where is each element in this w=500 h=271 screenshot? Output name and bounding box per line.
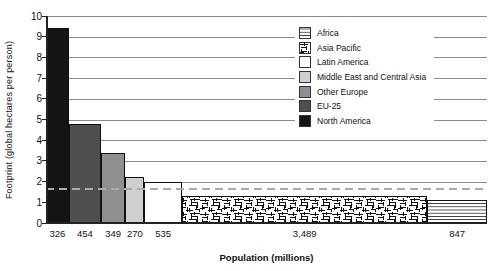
footprint-by-region-chart: Footprint (global hectares per person) P…: [0, 0, 500, 271]
legend-label-eu-25: EU-25: [317, 101, 341, 111]
legend-label-asia-pacific: Asia Pacific: [317, 43, 361, 53]
y-tick-label-8: 8: [20, 52, 42, 63]
y-tick-mark-5: [42, 119, 46, 120]
legend-item-latin-america: Latin America: [299, 55, 426, 70]
y-tick-label-2: 2: [20, 176, 42, 187]
y-axis-title: Footprint (global hectares per person): [4, 41, 14, 199]
y-tick-label-5: 5: [20, 114, 42, 125]
y-tick-label-4: 4: [20, 135, 42, 146]
legend-swatch-middle-east-and-central-asia: [299, 71, 311, 83]
y-tick-label-7: 7: [20, 73, 42, 84]
x-tick-label-africa: 847: [435, 228, 479, 239]
y-tick-mark-10: [42, 16, 46, 17]
legend-swatch-other-europe: [299, 86, 311, 98]
bar-africa: [428, 201, 487, 223]
y-tick-mark-0: [42, 223, 46, 224]
y-tick-label-9: 9: [20, 31, 42, 42]
y-tick-mark-6: [42, 98, 46, 99]
legend-label-latin-america: Latin America: [317, 57, 369, 67]
x-tick-label-asia-pacific: 3,489: [283, 228, 327, 239]
y-tick-mark-9: [42, 36, 46, 37]
bar-eu-25: [69, 125, 100, 223]
y-tick-label-0: 0: [20, 218, 42, 229]
x-axis-title: Population (millions): [46, 252, 487, 263]
y-tick-mark-2: [42, 181, 46, 182]
legend-label-north-america: North America: [317, 116, 371, 126]
y-tick-mark-8: [42, 57, 46, 58]
legend-swatch-eu-25: [299, 100, 311, 112]
legend-label-middle-east-and-central-asia: Middle East and Central Asia: [317, 72, 426, 82]
legend-label-other-europe: Other Europe: [317, 87, 368, 97]
bar-middle-east-and-central-asia: [126, 178, 144, 223]
legend-item-north-america: North America: [299, 114, 426, 129]
bar-north-america: [47, 29, 69, 223]
legend-label-africa: Africa: [317, 28, 339, 38]
y-tick-mark-4: [42, 140, 46, 141]
legend-item-middle-east-and-central-asia: Middle East and Central Asia: [299, 70, 426, 85]
legend-swatch-africa: [299, 27, 311, 39]
y-tick-label-10: 10: [20, 11, 42, 22]
legend-item-africa: Africa: [299, 26, 426, 41]
legend-swatch-latin-america: [299, 56, 311, 68]
legend-item-other-europe: Other Europe: [299, 84, 426, 99]
legend-item-asia-pacific: Asia Pacific: [299, 41, 426, 56]
legend-swatch-north-america: [299, 115, 311, 127]
y-tick-label-6: 6: [20, 93, 42, 104]
bar-asia-pacific: [183, 197, 427, 223]
legend-item-eu-25: EU-25: [299, 99, 426, 114]
x-tick-label-latin-america: 535: [141, 228, 185, 239]
y-tick-mark-7: [42, 78, 46, 79]
legend-swatch-asia-pacific: [299, 42, 311, 54]
y-tick-mark-3: [42, 160, 46, 161]
y-tick-label-1: 1: [20, 197, 42, 208]
y-tick-mark-1: [42, 202, 46, 203]
y-tick-label-3: 3: [20, 155, 42, 166]
legend: AfricaAsia PacificLatin AmericaMiddle Ea…: [295, 24, 434, 130]
